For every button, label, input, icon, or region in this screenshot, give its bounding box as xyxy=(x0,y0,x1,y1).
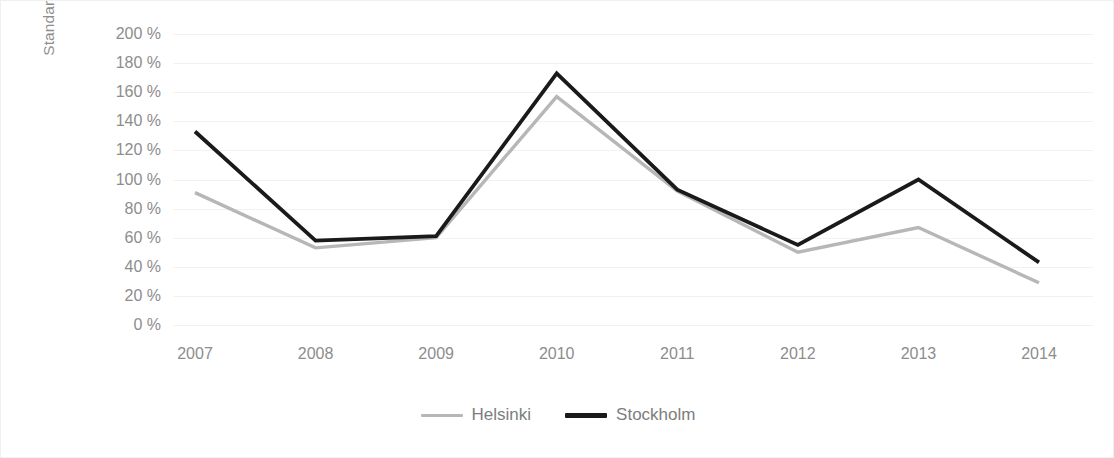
plot-area xyxy=(173,34,1093,325)
legend-swatch-stockholm xyxy=(565,413,607,418)
y-axis-tick-label: 100 % xyxy=(71,171,161,189)
legend-item-helsinki[interactable]: Helsinki xyxy=(421,405,532,425)
series-line-stockholm xyxy=(195,73,1039,262)
y-axis-title-line-1: Standard deviation, % of the average dai… xyxy=(39,0,59,68)
y-axis-tick-label: 40 % xyxy=(71,258,161,276)
y-axis-tick-label: 60 % xyxy=(71,229,161,247)
series-line-helsinki xyxy=(195,97,1039,283)
y-axis-tick-label: 120 % xyxy=(71,141,161,159)
gridline xyxy=(173,325,1093,326)
x-axis-tick-label: 2007 xyxy=(177,345,213,363)
legend-swatch-helsinki xyxy=(421,414,463,417)
y-axis-tick-label: 180 % xyxy=(71,54,161,72)
x-axis-tick-label: 2013 xyxy=(901,345,937,363)
y-axis-tick-label: 200 % xyxy=(71,25,161,43)
x-axis-tick-label: 2011 xyxy=(660,345,694,363)
line-chart: Standard deviation, % of the average dai… xyxy=(0,0,1114,458)
x-axis-tick-label: 2014 xyxy=(1021,345,1057,363)
y-axis-tick-label: 0 % xyxy=(71,316,161,334)
legend-label: Helsinki xyxy=(472,405,532,425)
x-axis-tick-label: 2010 xyxy=(539,345,575,363)
legend-item-stockholm[interactable]: Stockholm xyxy=(565,405,695,425)
series-lines xyxy=(173,34,1093,325)
legend-label: Stockholm xyxy=(616,405,695,425)
x-axis-tick-label: 2009 xyxy=(418,345,454,363)
legend: HelsinkiStockholm xyxy=(1,405,1114,425)
y-axis-tick-label: 20 % xyxy=(71,287,161,305)
x-axis-tick-label: 2012 xyxy=(780,345,816,363)
x-axis-tick-label: 2008 xyxy=(298,345,334,363)
y-axis-tick-label: 160 % xyxy=(71,83,161,101)
y-axis-tick-label: 140 % xyxy=(71,112,161,130)
y-axis-tick-label: 80 % xyxy=(71,200,161,218)
y-axis-tick-labels: 200 %180 %160 %140 %120 %100 %80 %60 %40… xyxy=(71,1,161,458)
